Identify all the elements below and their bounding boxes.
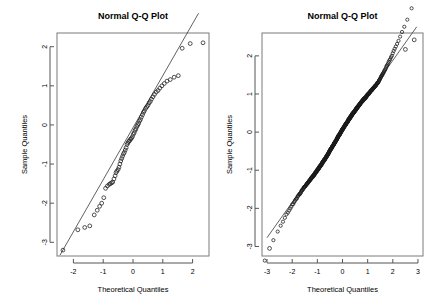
y-axis-tick-label: -1 [41,161,48,167]
y-axis-label: Sample Quantiles [20,115,29,174]
x-axis-tick-label: -3 [264,268,270,275]
x-axis-tick-label: 2 [191,268,195,275]
data-point [100,201,104,205]
data-point [172,75,176,79]
data-point [279,224,282,227]
y-axis-tick-label: 0 [246,130,253,134]
data-point [92,213,96,217]
y-axis-tick-label: 2 [246,54,253,58]
data-point [102,196,106,200]
data-point [188,42,192,46]
data-point [406,18,409,21]
data-point [88,224,92,228]
plot-title: Normal Q-Q Plot [307,11,377,21]
y-axis-tick-label: 1 [41,84,48,88]
data-point [403,25,406,28]
data-point [180,46,184,50]
figure-canvas: Normal Q-Q Plot-2-1012Theoretical Quanti… [0,0,440,307]
x-axis-tick-label: 2 [391,268,395,275]
data-point-group [263,0,422,262]
y-axis-label: Sample Quantiles [225,115,234,174]
data-point [83,226,87,230]
x-axis-label: Theoretical Quantiles [98,285,169,294]
data-point [283,216,286,219]
x-axis-tick-label: -2 [289,268,295,275]
plot-frame [262,33,423,256]
qq-plot-panel-left: Normal Q-Q Plot-2-1012Theoretical Quanti… [0,0,220,307]
data-point [123,148,127,152]
y-axis-tick-label: -2 [246,205,253,211]
x-axis-tick-label: 1 [161,268,165,275]
y-axis-tick-label: -2 [41,200,48,206]
data-point [176,74,180,78]
data-point [263,259,266,262]
y-axis-tick-label: -3 [41,239,48,245]
x-axis-tick-label: -1 [314,268,320,275]
data-point [95,208,99,212]
data-point [397,39,400,42]
x-axis-label: Theoretical Quantiles [307,285,378,294]
data-point [121,154,125,158]
data-point [76,228,80,232]
data-point [276,230,279,233]
data-point [403,47,407,51]
plot-title: Normal Q-Q Plot [98,11,168,21]
qq-plot-left-svg: Normal Q-Q Plot-2-1012Theoretical Quanti… [0,0,220,307]
x-axis-tick-label: -1 [100,268,106,275]
y-axis-tick-label: 0 [41,123,48,127]
data-point [160,84,164,88]
qq-plot-panel-right: Normal Q-Q Plot-3-2-10123Theoretical Qua… [220,0,440,307]
data-point [410,7,413,10]
y-axis-tick-label: 2 [41,45,48,49]
qq-plot-right-svg: Normal Q-Q Plot-3-2-10123Theoretical Qua… [220,0,440,307]
x-axis-tick-label: -2 [70,268,76,275]
plot-frame [57,33,209,256]
data-point [268,246,272,250]
data-point [272,239,275,242]
data-point [281,220,284,223]
x-axis-tick-label: 0 [341,268,345,275]
x-axis-tick-label: 1 [366,268,370,275]
data-point [201,41,205,45]
data-point [399,35,402,38]
data-point [120,157,124,161]
data-point [412,38,416,42]
x-axis-tick-label: 3 [416,268,420,275]
data-point [168,78,172,82]
reference-line [60,13,199,255]
y-axis-tick-label: -3 [246,243,253,249]
data-point-group [61,41,205,252]
y-axis-tick-label: -1 [246,167,253,173]
x-axis-tick-label: 0 [131,268,135,275]
y-axis-tick-label: 1 [246,92,253,96]
